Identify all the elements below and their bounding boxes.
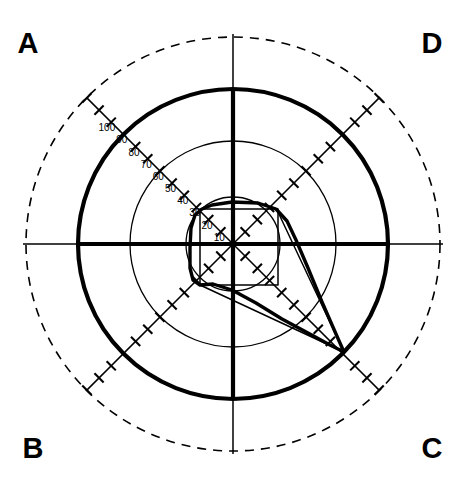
perimetry-chart-svg: 102030405060708090100 A D B C <box>0 0 463 489</box>
radial-tick-label-90: 90 <box>116 134 128 145</box>
corner-label-bottom-left: B <box>23 432 44 464</box>
radial-tick-label-80: 80 <box>128 147 140 158</box>
radial-tick-label-10: 10 <box>214 232 226 243</box>
radial-tick-label-100: 100 <box>99 122 116 133</box>
radial-tick-label-40: 40 <box>177 195 189 206</box>
radial-tick-label-50: 50 <box>165 183 177 194</box>
corner-label-bottom-right: C <box>422 432 443 464</box>
corner-label-top-left: A <box>18 27 39 59</box>
radial-tick-label-60: 60 <box>153 171 165 182</box>
radial-tick-label-70: 70 <box>141 159 153 170</box>
radial-tick-label-20: 20 <box>202 220 214 231</box>
perimetry-chart: 102030405060708090100 A D B C <box>0 0 463 489</box>
corner-label-top-right: D <box>422 27 443 59</box>
